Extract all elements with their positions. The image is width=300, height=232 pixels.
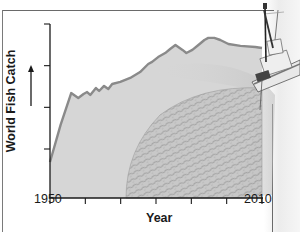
up-arrow-icon [28,65,34,106]
y-axis-ticks [44,24,50,149]
x-tick-label-end: 2010 [244,192,272,206]
x-tick-label-start: 1950 [34,192,62,206]
x-axis-ticks [50,198,262,204]
textbook-figure: World Fish Catch 1950 2010 Year [0,0,300,232]
x-axis-label: Year [146,211,172,225]
y-axis-label: World Fish Catch [4,46,20,156]
